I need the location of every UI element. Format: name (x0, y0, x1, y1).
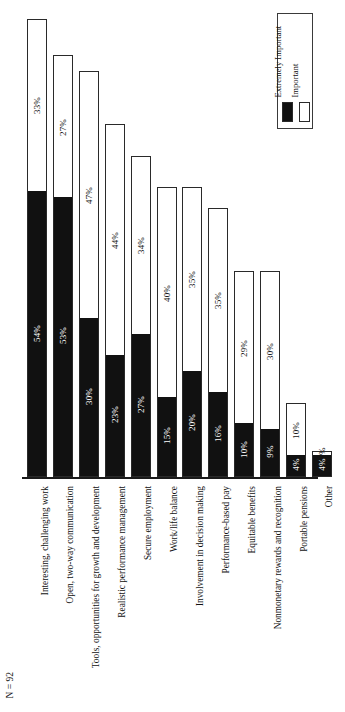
bar-value-label-extremely-important: 9% (266, 446, 275, 458)
x-axis-baseline (22, 477, 318, 479)
bar-segment-important[interactable]: 35% (183, 188, 201, 372)
category-label: Tools, opportunities for growth and deve… (92, 486, 101, 668)
category-label: Realistic performance management (118, 486, 127, 618)
bar-value-label-important: 29% (240, 340, 249, 357)
chart-legend: Extremely Important Important (277, 13, 313, 129)
bar-segment-extremely-important[interactable]: 9% (261, 429, 279, 476)
bar-value-label-important: 34% (136, 237, 145, 254)
bar-value-label-important: 47% (84, 187, 93, 204)
stacked-bar-chart: 33%54%27%53%47%30%44%23%34%27%40%15%35%2… (0, 0, 345, 712)
stacked-bar[interactable]: 35%16% (208, 208, 228, 477)
legend-label-extremely-important: Extremely Important (274, 26, 283, 98)
bar-segment-extremely-important[interactable]: 23% (106, 355, 124, 476)
stacked-bar[interactable]: 44%23% (105, 124, 125, 477)
bar-value-label-extremely-important: 54% (33, 325, 42, 342)
bar-segment-extremely-important[interactable]: 20% (183, 371, 201, 476)
bar-value-label-extremely-important: 16% (214, 425, 223, 442)
bar-value-label-extremely-important: 4% (292, 459, 301, 471)
bar-value-label-important: 35% (214, 292, 223, 309)
bar-segment-important[interactable]: 10% (287, 404, 305, 457)
bar-segment-important[interactable]: 29% (235, 272, 253, 425)
category-label: Work/life balance (170, 486, 179, 552)
bar-segment-extremely-important[interactable]: 4% (287, 455, 305, 476)
stacked-bar[interactable]: 10%4% (286, 403, 306, 477)
bar-segment-important[interactable]: 33% (28, 20, 46, 194)
bar-value-label-extremely-important: 15% (162, 427, 171, 444)
category-label: Secure employment (144, 486, 153, 560)
bar-value-label-extremely-important: 53% (58, 327, 67, 344)
bar-segment-important[interactable]: 30% (261, 272, 279, 430)
bar-segment-important[interactable]: 44% (106, 125, 124, 357)
stacked-bar[interactable]: 34%27% (131, 156, 151, 477)
bar-segment-extremely-important[interactable]: 10% (235, 423, 253, 476)
bar-segment-extremely-important[interactable]: 16% (209, 392, 227, 476)
bar-value-label-important: 40% (162, 284, 171, 301)
stacked-bar[interactable]: 47%30% (79, 71, 99, 477)
bar-segment-extremely-important[interactable]: 53% (54, 197, 72, 476)
bar-segment-extremely-important[interactable]: 4% (313, 455, 331, 476)
bar-value-label-important: 35% (188, 271, 197, 288)
sample-size-footnote: N = 92 (6, 672, 16, 698)
bar-segment-extremely-important[interactable]: 15% (158, 397, 176, 476)
bar-value-label-important: 44% (110, 232, 119, 249)
bar-value-label-extremely-important: 27% (136, 396, 145, 413)
category-label: Portable pensions (300, 486, 309, 552)
bar-segment-extremely-important[interactable]: 27% (132, 334, 150, 476)
bar-value-label-important: 10% (292, 422, 301, 439)
legend-label-important: Important (291, 64, 300, 98)
bar-value-label-important: 27% (58, 118, 67, 135)
category-label: Open, two-way communication (66, 486, 75, 603)
bar-segment-important[interactable]: 34% (132, 157, 150, 336)
stacked-bar[interactable]: 30%9% (260, 271, 280, 477)
bar-value-label-important: 30% (266, 342, 275, 359)
stacked-bar[interactable]: 27%53% (53, 55, 73, 477)
bar-segment-important[interactable]: 35% (209, 209, 227, 393)
stacked-bar[interactable]: 33%54% (27, 19, 47, 477)
bar-value-label-extremely-important: 10% (240, 441, 249, 458)
bar-value-label-important: 33% (33, 97, 42, 114)
bar-value-label-extremely-important: 20% (188, 414, 197, 431)
bar-segment-extremely-important[interactable]: 54% (28, 191, 46, 476)
stacked-bar[interactable]: 35%20% (182, 187, 202, 477)
category-label: Involvement in decision making (196, 486, 205, 606)
bar-segment-important[interactable]: 27% (54, 56, 72, 198)
bar-segment-important[interactable]: 40% (158, 188, 176, 399)
bar-segment-important[interactable]: 47% (80, 72, 98, 320)
category-label: Equitable benefits (248, 486, 257, 553)
legend-entry-important: Important (296, 14, 312, 126)
category-label: Other (325, 486, 334, 507)
stacked-bar[interactable]: 1%4% (312, 451, 332, 477)
stacked-bar[interactable]: 29%10% (234, 271, 254, 477)
legend-swatch-icon-important (299, 102, 310, 122)
bar-segment-extremely-important[interactable]: 30% (80, 318, 98, 476)
bar-value-label-extremely-important: 23% (110, 406, 119, 423)
bar-value-label-extremely-important: 30% (84, 388, 93, 405)
bar-value-label-extremely-important: 4% (317, 459, 326, 471)
category-label: Interesting, challenging work (41, 486, 50, 595)
stacked-bar[interactable]: 40%15% (157, 187, 177, 477)
category-label: Nonmonetary rewards and recognition (274, 486, 283, 629)
category-label: Performance-based pay (222, 486, 231, 574)
legend-swatch-icon-extremely-important (282, 102, 293, 122)
